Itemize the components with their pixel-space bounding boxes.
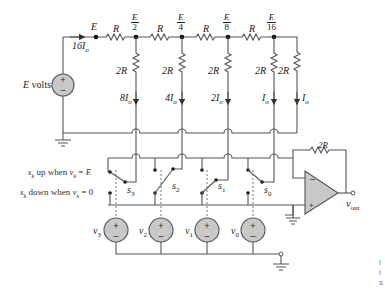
branch-current-8io: 8Io xyxy=(120,93,132,106)
source-label-v0: v0 xyxy=(231,226,239,239)
source-label-v2: v2 xyxy=(139,226,147,239)
source-label-v3: v3 xyxy=(93,226,101,239)
switches xyxy=(108,150,274,218)
source-label-v1: v1 xyxy=(185,226,193,239)
branch-current-io: Io xyxy=(262,93,269,106)
series-resistor-label: R xyxy=(203,24,209,34)
shunt-resistor-label: 2R xyxy=(116,66,127,76)
source-label: E volts xyxy=(23,80,51,90)
svg-text:–: – xyxy=(310,174,315,184)
svg-text:+: + xyxy=(60,75,65,85)
ground-bus xyxy=(63,129,297,133)
svg-text:–: – xyxy=(113,231,118,241)
branch-current-4io: 4Io xyxy=(165,93,177,106)
shunt-resistor-label: 2R xyxy=(255,66,266,76)
switch-label-s1: s1 xyxy=(218,181,225,194)
node-label-e: E xyxy=(91,22,97,32)
svg-text:+: + xyxy=(204,221,209,231)
shunt-resistor-label: 2R xyxy=(162,66,173,76)
summing-bus xyxy=(108,154,305,178)
shunt-resistor-label: 2R xyxy=(208,66,219,76)
svg-text:+: + xyxy=(250,221,255,231)
branch-current-io-terminal: Io xyxy=(302,93,309,106)
edge-text-fragment: s xyxy=(379,278,383,288)
edge-text-fragment: l xyxy=(379,258,381,268)
branch-current-2io: 2Io xyxy=(211,93,223,106)
node-label-e-over-8: E8 xyxy=(223,13,231,32)
ground-icon xyxy=(55,140,71,146)
switch-down-rule: sk down when vk = 0 xyxy=(20,188,93,199)
series-resistor-label: R xyxy=(113,24,119,34)
svg-text:–: – xyxy=(204,231,209,241)
svg-text:+: + xyxy=(158,221,163,231)
svg-text:+: + xyxy=(309,201,314,210)
svg-text:–: – xyxy=(250,231,255,241)
switch-label-s2: s2 xyxy=(172,181,179,194)
input-current-label: 16Io xyxy=(72,41,89,54)
ladder-top-rail xyxy=(94,34,297,52)
node-label-e-over-2: E2 xyxy=(131,13,139,32)
svg-text:–: – xyxy=(158,231,163,241)
voltage-source-e: + – xyxy=(52,74,74,96)
switch-label-s3: s3 xyxy=(127,185,134,198)
feedback-resistor-label: 2R xyxy=(318,141,328,150)
series-resistor-label: R xyxy=(157,24,163,34)
switch-label-s0: s0 xyxy=(264,185,271,198)
shunt-resistor-label: 2R xyxy=(278,66,289,76)
control-sources: +– +– +– +– xyxy=(104,218,289,270)
switch-up-rule: sk up when vk = E xyxy=(28,168,91,179)
node-label-e-over-4: E4 xyxy=(177,13,185,32)
series-resistor-label: R xyxy=(249,24,255,34)
edge-text-fragment: i xyxy=(379,268,381,278)
node-label-e-over-16: E16 xyxy=(267,13,276,32)
dac-circuit-diagram: + – xyxy=(0,0,385,288)
svg-text:+: + xyxy=(113,221,118,231)
svg-text:–: – xyxy=(60,85,65,95)
output-label: vout xyxy=(346,199,359,212)
